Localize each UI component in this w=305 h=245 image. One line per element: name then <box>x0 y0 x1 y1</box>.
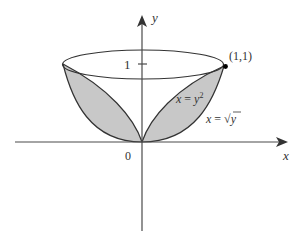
origin-label: 0 <box>125 149 131 163</box>
x-axis-label: x <box>282 148 289 163</box>
diagram-stage: y x 0 1 (1,1) x = y2 x = √y <box>0 0 305 245</box>
y-axis-label: y <box>150 10 158 25</box>
curve-label-rhs: y <box>230 112 237 126</box>
point-label: (1,1) <box>229 49 252 63</box>
diagram-canvas: y x 0 1 (1,1) x = y2 x = √y <box>0 0 305 245</box>
curve-label-sqrt-y: x = √y <box>205 112 237 126</box>
point-1-1 <box>223 64 228 69</box>
curve-label-exponent: 2 <box>199 91 203 100</box>
curve-label-eq: = <box>181 92 194 106</box>
y-tick-label-1: 1 <box>124 57 131 72</box>
curve-label-eq: = <box>211 112 224 126</box>
curve-label-y-squared: x = y2 <box>175 91 203 106</box>
shaded-region-left <box>63 64 142 142</box>
